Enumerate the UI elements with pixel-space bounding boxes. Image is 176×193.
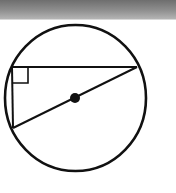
- center-point: [70, 93, 80, 103]
- right-angle-marker: [12, 67, 28, 83]
- geometry-diagram: [0, 0, 176, 193]
- triangle-leg-left: [12, 67, 13, 128]
